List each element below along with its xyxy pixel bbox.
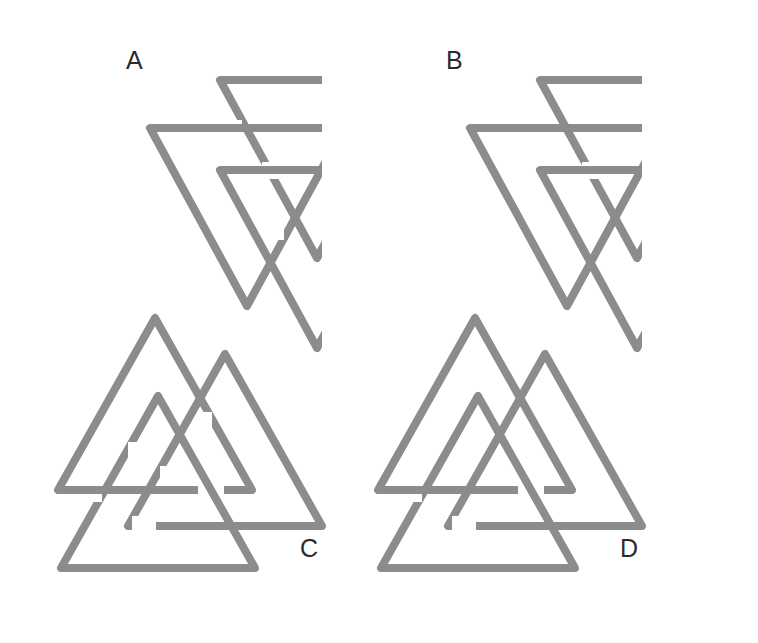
triangle-lower-left <box>381 396 575 568</box>
triangle-lower-left <box>61 396 255 568</box>
panel-label-b: B <box>446 48 463 73</box>
panel-label-c: C <box>300 536 319 561</box>
panel-d <box>360 300 660 590</box>
panel-label-d: D <box>620 536 639 561</box>
figure-canvas: A <box>0 0 758 643</box>
panel-label-a: A <box>126 48 143 73</box>
panel-c <box>40 300 340 590</box>
panel-c-diagram <box>40 300 340 590</box>
panel-d-diagram <box>360 300 660 590</box>
